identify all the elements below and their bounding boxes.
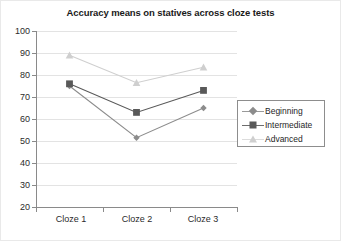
legend-item-advanced: Advanced <box>241 132 323 146</box>
y-axis-tick-mark <box>32 163 36 164</box>
series-line-intermediate <box>70 84 204 113</box>
legend-marker-square-icon <box>241 119 265 131</box>
x-axis-tick-mark <box>103 208 104 212</box>
data-point-square-icon <box>200 87 207 94</box>
legend-label-advanced: Advanced <box>265 134 303 144</box>
y-axis-tick-label: 100 <box>2 27 30 36</box>
data-point-triangle-icon <box>66 51 74 58</box>
data-point-triangle-icon <box>200 64 208 71</box>
y-axis-tick-mark <box>32 53 36 54</box>
chart-container: Accuracy means on statives across cloze … <box>0 0 341 241</box>
series-plot <box>36 31 237 208</box>
legend-item-intermediate: Intermediate <box>241 118 323 132</box>
legend-label-beginning: Beginning <box>265 106 303 116</box>
x-axis-tick-mark <box>237 208 238 212</box>
data-point-diamond-icon <box>200 105 206 111</box>
x-axis-label-cloze-3: Cloze 3 <box>168 214 238 224</box>
y-axis-tick-label: 20 <box>2 203 30 212</box>
legend-label-intermediate: Intermediate <box>265 120 312 130</box>
y-axis-tick-label: 60 <box>2 115 30 124</box>
chart-legend: Beginning Intermediate Advanced <box>237 100 325 147</box>
x-axis-tick-mark <box>36 208 37 212</box>
y-axis-tick-mark <box>32 185 36 186</box>
y-axis-tick-mark <box>32 97 36 98</box>
data-point-square-icon <box>133 109 140 116</box>
y-axis-tick-mark <box>32 141 36 142</box>
y-axis-tick-label: 90 <box>2 49 30 58</box>
y-axis-labels: 1009080706050403020 <box>0 31 30 208</box>
y-axis-tick-label: 40 <box>2 159 30 168</box>
series-line-advanced <box>70 55 204 82</box>
x-axis-label-cloze-1: Cloze 1 <box>36 214 106 224</box>
y-axis-tick-label: 30 <box>2 181 30 190</box>
legend-marker-diamond-icon <box>241 105 265 117</box>
y-axis-tick-mark <box>32 75 36 76</box>
y-axis-tick-mark <box>32 31 36 32</box>
y-axis-tick-label: 70 <box>2 93 30 102</box>
legend-item-beginning: Beginning <box>241 104 323 118</box>
chart-title: Accuracy means on statives across cloze … <box>0 7 341 18</box>
y-axis-tick-label: 80 <box>2 71 30 80</box>
data-point-square-icon <box>66 80 73 87</box>
y-axis-tick-mark <box>32 119 36 120</box>
legend-marker-triangle-icon <box>241 133 265 145</box>
y-axis-tick-label: 50 <box>2 137 30 146</box>
x-axis-label-cloze-2: Cloze 2 <box>102 214 172 224</box>
x-axis-tick-mark <box>170 208 171 212</box>
